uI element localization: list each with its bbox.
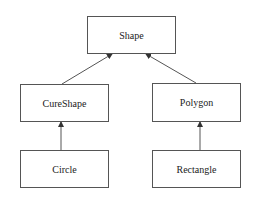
node-label: Rectangle <box>177 164 217 175</box>
node-label: Circle <box>52 164 76 175</box>
node-label: Shape <box>119 30 143 41</box>
edge-polygon-to-shape <box>146 54 196 83</box>
node-circle: Circle <box>20 150 109 188</box>
node-polygon: Polygon <box>152 83 241 122</box>
node-shape: Shape <box>87 16 176 54</box>
node-cureshape: CureShape <box>20 84 109 122</box>
edge-cureshape-to-shape <box>62 54 112 84</box>
node-label: CureShape <box>43 98 87 109</box>
node-label: Polygon <box>180 97 213 108</box>
node-rectangle: Rectangle <box>152 150 241 188</box>
